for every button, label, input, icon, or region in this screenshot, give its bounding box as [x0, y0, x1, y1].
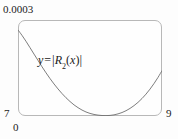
- equation-abs-bar-right: |: [79, 52, 82, 67]
- chart-screenshot: 0.0003 7 0 9 y=|R2(x)|: [0, 0, 178, 139]
- equation-operator: =: [43, 53, 52, 67]
- y-axis-min-label: 7: [4, 108, 10, 119]
- y-axis-max-label: 0.0003: [3, 4, 33, 15]
- x-axis-max-label: 9: [166, 108, 172, 119]
- curve-path-R2: [18, 30, 162, 116]
- equation-function-name: R: [55, 53, 62, 67]
- curve-equation-annotation: y=|R2(x)|: [38, 53, 82, 69]
- equation-subscript: 2: [62, 62, 66, 71]
- x-axis-min-label: 0: [13, 122, 19, 133]
